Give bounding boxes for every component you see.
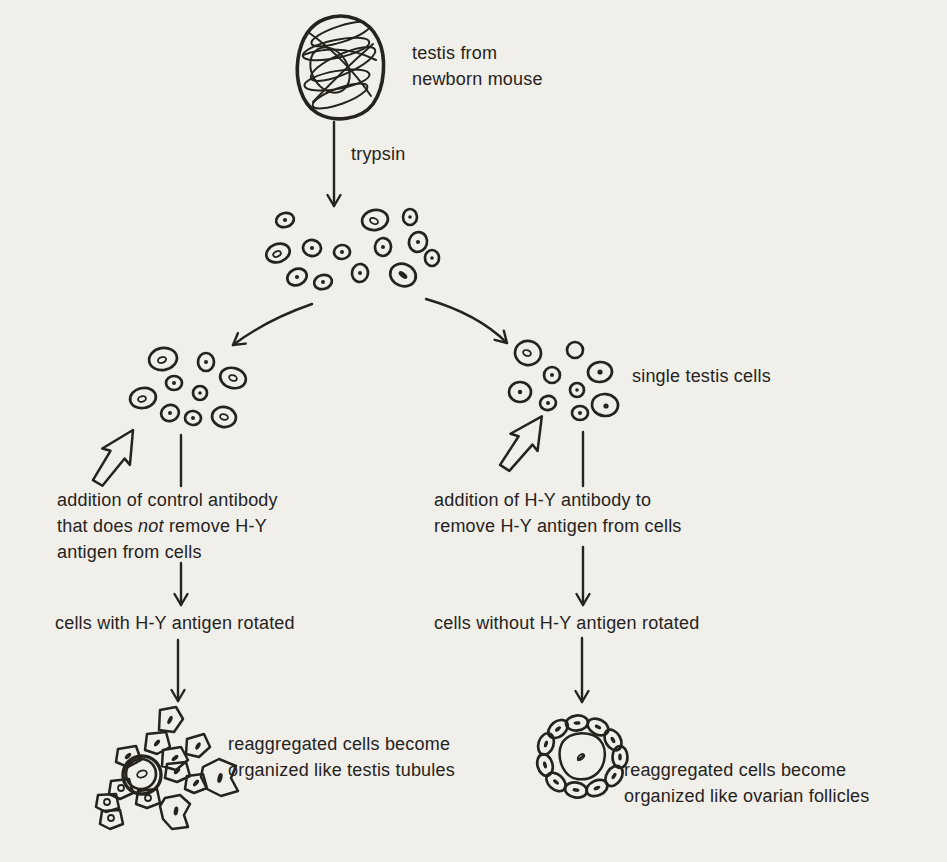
experiment-diagram: testis from newborn mouse trypsin single… — [0, 0, 947, 862]
left-addition-line3: antigen from cells — [57, 539, 278, 565]
single-testis-cells-label: single testis cells — [632, 363, 771, 389]
left-addition-line1: addition of control antibody — [57, 487, 278, 513]
right-branch-arrow — [426, 299, 512, 348]
not-emphasis: not — [138, 516, 164, 536]
testis-illustration — [297, 16, 383, 119]
right-highlight-arrow — [491, 408, 556, 478]
testis-tubules-illustration — [96, 707, 238, 829]
right-result-line2: organized like ovarian follicles — [624, 783, 870, 809]
right-lower-arrow — [576, 638, 589, 702]
left-addition-label: addition of control antibody that does n… — [57, 487, 278, 565]
dissociated-cells-illustration — [264, 208, 439, 291]
source-label: testis from newborn mouse — [412, 40, 543, 92]
left-cell-cluster-illustration — [128, 346, 248, 429]
right-result-line1: reaggregated cells become — [624, 757, 870, 783]
ovarian-follicle-illustration — [535, 714, 628, 799]
trypsin-arrow — [328, 122, 341, 206]
left-branch-arrow — [229, 304, 312, 350]
left-lower-arrow — [172, 640, 185, 701]
right-result-label: reaggregated cells become organized like… — [624, 757, 870, 809]
left-result-line2: organized like testis tubules — [228, 757, 455, 783]
left-highlight-arrow — [84, 422, 148, 493]
left-result-label: reaggregated cells become organized like… — [228, 731, 455, 783]
source-label-line2: newborn mouse — [412, 66, 543, 92]
left-addition-line2: that does not remove H-Y — [57, 513, 278, 539]
enzyme-label: trypsin — [351, 141, 405, 167]
right-mid-arrow — [577, 547, 590, 605]
left-rotated-label: cells with H-Y antigen rotated — [55, 610, 295, 636]
left-mid-arrow — [175, 563, 188, 605]
right-rotated-label: cells without H-Y antigen rotated — [434, 610, 699, 636]
right-addition-line1: addition of H-Y antibody to — [434, 487, 682, 513]
right-addition-line2: remove H-Y antigen from cells — [434, 513, 682, 539]
right-cell-cluster-illustration — [509, 339, 619, 420]
source-label-line1: testis from — [412, 40, 543, 66]
diagram-artwork — [0, 0, 947, 862]
left-result-line1: reaggregated cells become — [228, 731, 455, 757]
right-addition-label: addition of H-Y antibody to remove H-Y a… — [434, 487, 682, 539]
